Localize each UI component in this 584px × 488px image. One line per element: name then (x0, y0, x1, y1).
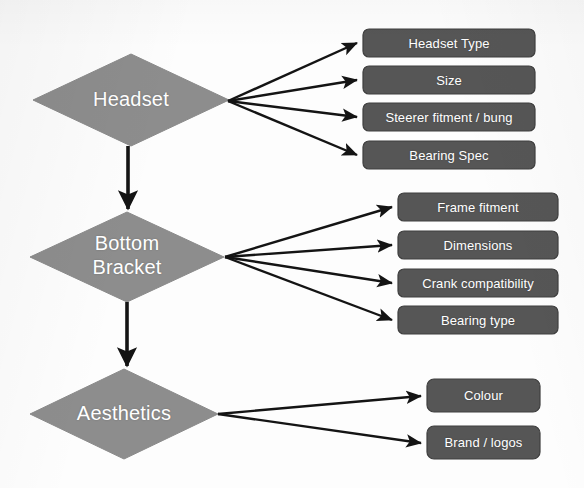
attribute-bearing-spec[interactable] (363, 141, 535, 169)
attribute-bearing-type[interactable] (398, 306, 558, 334)
node-bottom-bracket[interactable] (30, 212, 224, 302)
attribute-steerer-fitment-bung[interactable] (363, 103, 535, 131)
attribute-size[interactable] (363, 66, 535, 94)
connector-headset-attributes (228, 43, 357, 155)
diagram-canvas: Headset Bottom Bracket Aesthetics Headse… (0, 0, 584, 488)
attribute-colour[interactable] (427, 379, 540, 412)
attribute-crank-compatibility[interactable] (398, 269, 558, 297)
attribute-brand-logos[interactable] (427, 426, 540, 459)
attribute-frame-fitment[interactable] (398, 193, 558, 221)
connector-aesthetics-attributes (218, 396, 421, 443)
attribute-dimensions[interactable] (398, 231, 558, 259)
attribute-headset-type[interactable] (363, 29, 535, 57)
node-headset[interactable] (33, 54, 229, 146)
connector-bottom-bracket-attributes (225, 207, 392, 320)
node-aesthetics[interactable] (30, 369, 218, 459)
